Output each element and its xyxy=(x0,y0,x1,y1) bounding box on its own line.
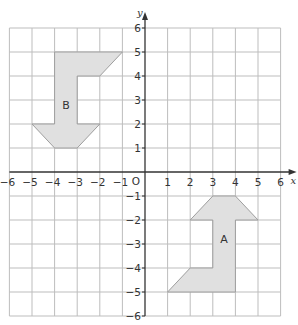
x-tick-label: 1 xyxy=(164,176,171,188)
y-axis-arrow-icon xyxy=(142,12,148,20)
y-tick-label: 6 xyxy=(134,22,141,34)
x-tick-label: −4 xyxy=(45,176,61,188)
shape-b-label: B xyxy=(62,99,70,112)
axes: x y O xyxy=(9,7,296,316)
x-tick-label: −1 xyxy=(113,176,128,188)
y-tick-label: 4 xyxy=(134,70,141,82)
x-tick-label: −5 xyxy=(22,176,37,188)
y-tick-label: 3 xyxy=(134,94,141,106)
x-tick-label: −6 xyxy=(0,176,15,188)
y-tick-label: −6 xyxy=(126,310,142,322)
y-tick-label: −1 xyxy=(126,190,141,202)
y-tick-label: −2 xyxy=(126,214,141,226)
x-tick-label: 6 xyxy=(277,176,284,188)
x-tick-label: 5 xyxy=(255,176,262,188)
x-tick-label: 2 xyxy=(187,176,194,188)
x-tick-label: −2 xyxy=(90,176,105,188)
y-tick-label: 2 xyxy=(134,118,141,130)
x-tick-label: −3 xyxy=(67,176,82,188)
y-tick-label: −4 xyxy=(126,262,142,274)
y-tick-label: −5 xyxy=(126,286,141,298)
shape-a-label: A xyxy=(220,233,228,246)
grid-canvas: AB x y O −6−5−4−3−2−1123456654321−1−2−3−… xyxy=(0,0,298,325)
x-axis-label: x xyxy=(291,175,297,186)
y-tick-label: −3 xyxy=(126,238,141,250)
origin-label: O xyxy=(132,175,140,187)
y-axis-label: y xyxy=(136,7,143,18)
x-tick-label: 4 xyxy=(232,176,239,188)
y-tick-label: 5 xyxy=(134,46,141,58)
x-tick-label: 3 xyxy=(209,176,216,188)
y-tick-label: 1 xyxy=(134,142,141,154)
coordinate-grid-diagram: AB x y O −6−5−4−3−2−1123456654321−1−2−3−… xyxy=(0,0,298,325)
